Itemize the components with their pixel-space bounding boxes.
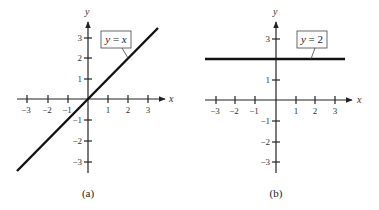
equation-label: y = x [104, 33, 127, 45]
svg-text:3: 3 [146, 105, 151, 115]
svg-text:1: 1 [78, 74, 83, 84]
y-axis-label: y [272, 6, 278, 17]
svg-text:1: 1 [106, 105, 111, 115]
label-leader-line [122, 48, 128, 58]
svg-text:−3: −3 [260, 157, 270, 167]
svg-text:2: 2 [313, 106, 318, 116]
caption-a: (a) [82, 187, 95, 200]
svg-text:−2: −2 [229, 106, 239, 116]
svg-text:1: 1 [294, 106, 299, 116]
svg-text:−1: −1 [62, 105, 72, 115]
label-leader-line [311, 48, 315, 59]
svg-text:2: 2 [126, 105, 131, 115]
equation-label: y = 2 [300, 33, 323, 45]
svg-text:−3: −3 [210, 106, 220, 116]
svg-text:3: 3 [333, 106, 338, 116]
y-axis-label: y [84, 6, 90, 17]
svg-text:−3: −3 [21, 105, 31, 115]
caption-b: (b) [270, 187, 283, 200]
x-axis-label: x [168, 93, 174, 104]
panel-a: x y −3 −2 −1 1 2 3 [17, 6, 174, 200]
y-tick-labels: 3 2 1 −1 −2 −3 [72, 33, 82, 167]
x-tick-labels: −3 −2 −1 1 2 3 [21, 105, 151, 115]
svg-text:−2: −2 [42, 105, 52, 115]
svg-text:3: 3 [266, 34, 271, 44]
x-tick-labels: −3 −2 −1 1 2 3 [210, 106, 338, 116]
svg-text:−1: −1 [260, 116, 270, 126]
svg-text:−3: −3 [72, 157, 82, 167]
svg-text:−2: −2 [72, 136, 82, 146]
svg-text:2: 2 [78, 53, 83, 63]
svg-text:−1: −1 [72, 115, 82, 125]
panel-b: x y −3 −2 −1 1 2 3 3 [205, 6, 362, 200]
svg-text:1: 1 [266, 75, 271, 85]
x-axis-label: x [356, 94, 362, 105]
svg-text:−2: −2 [260, 137, 270, 147]
svg-text:−1: −1 [249, 106, 259, 116]
svg-text:3: 3 [78, 33, 83, 43]
figure: x y −3 −2 −1 1 2 3 [0, 0, 379, 210]
